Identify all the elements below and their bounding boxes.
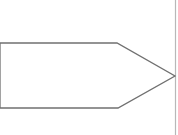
diagram-svg bbox=[0, 0, 178, 135]
pentagon-arrow-shape[interactable] bbox=[0, 43, 175, 108]
diagram-canvas bbox=[0, 0, 178, 135]
